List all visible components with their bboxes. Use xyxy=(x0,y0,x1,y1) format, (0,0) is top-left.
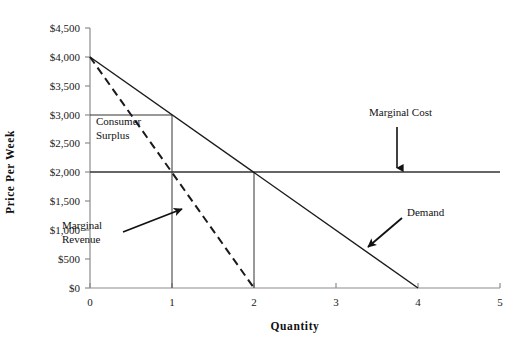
y-tick-label-3500: $3,500 xyxy=(0,81,80,92)
axes-group xyxy=(85,28,500,288)
y-axis-ticks xyxy=(85,28,90,288)
x-tick-label-3: 3 xyxy=(333,297,339,308)
y-tick-label-4500: $4,500 xyxy=(0,23,80,34)
marginal-revenue-arrow xyxy=(123,209,182,232)
y-tick-label-4000: $4,000 xyxy=(0,52,80,63)
consumer-surplus-line-1: Consumer xyxy=(96,114,141,128)
annotation-marginal-revenue: Marginal Revenue xyxy=(62,218,102,246)
marginal-revenue-line-1: Marginal xyxy=(62,218,102,232)
x-axis-ticks xyxy=(90,283,500,288)
x-axis-title: Quantity xyxy=(271,320,320,332)
x-tick-label-0: 0 xyxy=(87,297,93,308)
annotation-demand: Demand xyxy=(407,205,444,219)
annotation-marginal-cost: Marginal Cost xyxy=(369,105,432,119)
x-tick-label-4: 4 xyxy=(415,297,421,308)
x-tick-label-5: 5 xyxy=(497,297,503,308)
y-axis-title: Price Per Week xyxy=(4,130,16,214)
y-tick-label-3000: $3,000 xyxy=(0,110,80,121)
consumer-surplus-line-2: Surplus xyxy=(96,128,141,142)
y-tick-label-0: $0 xyxy=(0,283,80,294)
economics-chart: $4,500 $4,000 $3,500 $3,000 $2,500 $2,00… xyxy=(0,0,527,345)
annotation-consumer-surplus: Consumer Surplus xyxy=(96,114,141,142)
demand-arrow xyxy=(368,218,402,247)
x-tick-label-2: 2 xyxy=(251,297,257,308)
y-tick-label-500: $500 xyxy=(0,254,80,265)
x-tick-label-1: 1 xyxy=(169,297,175,308)
marginal-revenue-line-2: Revenue xyxy=(62,232,102,246)
